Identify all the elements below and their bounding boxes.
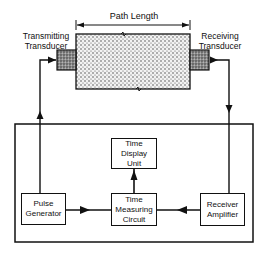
path-length-dimension [76,20,190,30]
time-display-unit-block: Time Display Unit [111,138,157,169]
receiving-transducer-block [190,50,209,70]
time-measuring-circuit-block: Time Measuring Circuit [111,193,157,226]
pulse-to-timer-arrow [66,206,111,214]
transmitting-transducer-label-line1: Transmitting [18,31,74,41]
path-length-label: Path Length [96,11,172,21]
time-display-unit-line2: Display [121,149,147,159]
pulse-generator-line2: Generator [25,209,61,219]
pulse-generator-line1: Pulse [25,199,61,209]
receiving-transducer-label-line1: Receiving [192,31,248,41]
transmitting-transducer-label: Transmitting Transducer [18,31,74,51]
time-display-unit-line1: Time [121,139,147,149]
time-measuring-circuit-line2: Measuring [115,205,152,215]
receiving-transducer-label: Receiving Transducer [192,31,248,51]
specimen [76,32,190,91]
time-display-unit-line3: Unit [121,159,147,169]
timer-to-display-arrow [131,169,138,193]
transmitting-transducer-block [57,50,76,70]
transmitting-transducer-label-line2: Transducer [18,41,74,51]
receiver-amplifier-line2: Amplifier [207,210,239,220]
receiver-amplifier-block: Receiver Amplifier [200,193,245,226]
receiver-to-timer-arrow [156,206,200,214]
receiver-amplifier-line1: Receiver [207,200,239,210]
pulse-generator-block: Pulse Generator [21,193,66,225]
time-measuring-circuit-line1: Time [115,195,152,205]
time-measuring-circuit-line3: Circuit [115,215,152,225]
receiving-transducer-label-line2: Transducer [192,41,248,51]
